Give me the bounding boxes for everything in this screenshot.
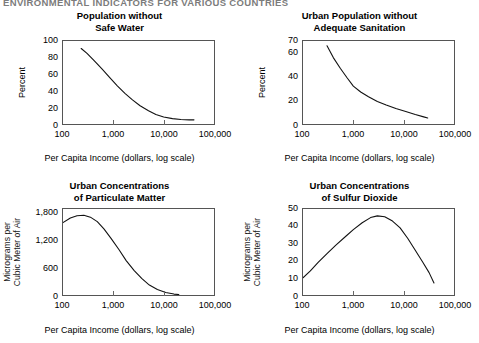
data-curve bbox=[303, 216, 434, 283]
x-tick-label: 1,000 bbox=[87, 129, 139, 139]
plot-area bbox=[62, 208, 215, 296]
curve-svg bbox=[63, 41, 214, 124]
page-header: ENVIRONMENTAL INDICATORS FOR VARIOUS COU… bbox=[3, 0, 473, 9]
x-tick-label: 10,000 bbox=[138, 300, 190, 310]
x-tick-label: 10,000 bbox=[378, 300, 430, 310]
x-tick-mark bbox=[353, 291, 354, 296]
x-tick-label: 1,000 bbox=[327, 300, 379, 310]
x-axis-title: Per Capita Income (dollars, log scale) bbox=[0, 153, 239, 163]
y-tick-label: 40 bbox=[264, 72, 298, 81]
plot-area bbox=[302, 208, 455, 296]
chart-title: Urban Concentrations of Particulate Matt… bbox=[0, 180, 239, 203]
x-axis-title: Per Capita Income (dollars, log scale) bbox=[240, 153, 479, 163]
x-tick-mark bbox=[164, 291, 165, 296]
x-tick-mark bbox=[113, 120, 114, 125]
chart-title-line2: Safe Water bbox=[0, 22, 239, 34]
y-tick-label: 600 bbox=[24, 264, 58, 273]
x-tick-label: 100,000 bbox=[429, 129, 479, 139]
plot-area bbox=[302, 40, 455, 125]
y-tick-label: 40 bbox=[24, 87, 58, 96]
x-tick-label: 10,000 bbox=[138, 129, 190, 139]
y-tick-label: 30 bbox=[264, 239, 298, 248]
chart-title: Population without Safe Water bbox=[0, 10, 239, 33]
plot-area bbox=[62, 40, 215, 125]
y-tick-label: 100 bbox=[24, 36, 58, 45]
curve-svg bbox=[63, 209, 214, 295]
y-tick-label: 60 bbox=[264, 48, 298, 57]
x-tick-label: 100 bbox=[276, 129, 328, 139]
figure-grid: Population without Safe Water Percent 02… bbox=[0, 10, 479, 343]
y-tick-label: 20 bbox=[24, 104, 58, 113]
chart-panel-population-without-safe-water: Population without Safe Water Percent 02… bbox=[0, 10, 239, 176]
y-tick-label: 1,200 bbox=[24, 236, 58, 245]
y-tick-label: 20 bbox=[264, 96, 298, 105]
y-tick-label: 70 bbox=[264, 36, 298, 45]
chart-title-line1: Urban Concentrations bbox=[310, 180, 410, 191]
chart-panel-urban-concentrations-of-sulfur-dioxide: Urban Concentrations of Sulfur Dioxide M… bbox=[240, 180, 479, 343]
chart-panel-urban-concentrations-of-particulate-matter: Urban Concentrations of Particulate Matt… bbox=[0, 180, 239, 343]
chart-panel-urban-population-without-adequate-sanitation: Urban Population without Adequate Sanita… bbox=[240, 10, 479, 176]
y-axis-title-line1: Micrograms per bbox=[242, 208, 252, 296]
x-tick-mark bbox=[113, 291, 114, 296]
y-tick-label: 50 bbox=[264, 204, 298, 213]
y-tick-label: 1,800 bbox=[24, 208, 58, 217]
y-axis-title: Micrograms per Cubic Meter of Air bbox=[242, 208, 256, 296]
chart-title-line1: Population without bbox=[77, 10, 162, 21]
x-tick-label: 100,000 bbox=[189, 129, 241, 139]
x-tick-mark bbox=[164, 120, 165, 125]
y-tick-label: 80 bbox=[24, 53, 58, 62]
x-tick-label: 10,000 bbox=[378, 129, 430, 139]
x-tick-label: 100 bbox=[276, 300, 328, 310]
x-tick-label: 100,000 bbox=[189, 300, 241, 310]
data-curve bbox=[327, 46, 428, 118]
y-tick-label: 40 bbox=[264, 221, 298, 230]
curve-svg bbox=[303, 41, 454, 124]
chart-title-line1: Urban Concentrations bbox=[70, 180, 170, 191]
y-axis-title: Micrograms per Cubic Meter of Air bbox=[2, 208, 16, 296]
y-axis-title-line2: Cubic Meter of Air bbox=[12, 208, 22, 296]
y-axis-title-line1: Micrograms per bbox=[2, 208, 12, 296]
x-tick-mark bbox=[404, 291, 405, 296]
y-axis-title-line2: Cubic Meter of Air bbox=[252, 208, 262, 296]
x-tick-mark bbox=[353, 120, 354, 125]
data-curve bbox=[63, 215, 179, 294]
chart-title-line1: Urban Population without bbox=[302, 10, 418, 21]
curve-svg bbox=[303, 209, 454, 295]
x-tick-label: 100 bbox=[36, 129, 88, 139]
x-tick-label: 100,000 bbox=[429, 300, 479, 310]
x-tick-label: 1,000 bbox=[87, 300, 139, 310]
data-curve bbox=[81, 48, 194, 119]
y-tick-label: 20 bbox=[264, 256, 298, 265]
y-tick-label: 10 bbox=[264, 274, 298, 283]
y-tick-label: 60 bbox=[24, 70, 58, 79]
x-axis-title: Per Capita Income (dollars, log scale) bbox=[0, 325, 239, 335]
chart-title-line2: Adequate Sanitation bbox=[240, 22, 479, 34]
x-axis-title: Per Capita Income (dollars, log scale) bbox=[240, 325, 479, 335]
chart-title: Urban Concentrations of Sulfur Dioxide bbox=[240, 180, 479, 203]
chart-title: Urban Population without Adequate Sanita… bbox=[240, 10, 479, 33]
chart-title-line2: of Sulfur Dioxide bbox=[240, 192, 479, 204]
x-tick-mark bbox=[404, 120, 405, 125]
chart-title-line2: of Particulate Matter bbox=[0, 192, 239, 204]
x-tick-label: 1,000 bbox=[327, 129, 379, 139]
x-tick-label: 100 bbox=[36, 300, 88, 310]
